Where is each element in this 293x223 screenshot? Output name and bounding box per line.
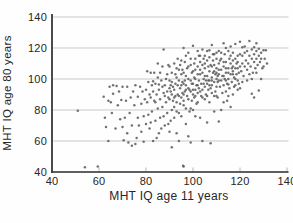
scatter-point — [152, 140, 155, 143]
scatter-point — [225, 67, 228, 70]
scatter-point — [206, 75, 209, 78]
scatter-point — [248, 55, 251, 58]
scatter-point — [175, 76, 178, 79]
scatter-point — [137, 117, 140, 120]
scatter-point — [152, 90, 155, 93]
scatter-point — [222, 75, 225, 78]
scatter-point — [232, 70, 235, 73]
scatter-point — [117, 104, 120, 107]
scatter-point — [222, 101, 225, 104]
scatter-point — [215, 86, 218, 89]
scatter-point — [142, 115, 145, 118]
scatter-point — [204, 67, 207, 70]
scatter-point — [172, 86, 175, 89]
scatter-point — [168, 87, 171, 90]
scatter-point — [174, 73, 177, 76]
scatter-point — [131, 124, 134, 127]
scatter-point — [206, 121, 209, 124]
scatter-point — [260, 58, 263, 61]
scatter-point — [175, 67, 178, 70]
scatter-point — [206, 59, 209, 62]
y-tick-label: 120 — [28, 42, 47, 54]
scatter-point — [147, 113, 150, 116]
scatter-point — [196, 92, 199, 95]
scatter-point — [158, 89, 161, 92]
x-axis-title: MHT IQ age 11 years — [109, 189, 228, 203]
scatter-point — [255, 72, 258, 75]
scatter-point — [258, 48, 261, 51]
y-axis-tick-labels: 406080100120140 — [28, 11, 47, 178]
scatter-point — [227, 67, 230, 70]
scatter-point — [153, 72, 156, 75]
scatter-point — [201, 89, 204, 92]
scatter-point — [241, 62, 244, 65]
scatter-point — [201, 140, 204, 143]
scatter-point — [194, 78, 197, 81]
scatter-point — [179, 64, 182, 67]
scatter-point — [192, 109, 195, 112]
scatter-point — [187, 135, 190, 138]
scatter-point — [236, 55, 239, 58]
scatter-point — [140, 130, 143, 133]
scatter-point — [201, 72, 204, 75]
scatter-point — [173, 62, 176, 65]
scatter-point — [192, 44, 195, 47]
scatter-point — [164, 124, 167, 127]
scatter-point — [225, 61, 228, 64]
scatter-point — [235, 73, 238, 76]
scatter-point — [172, 99, 175, 102]
scatter-point — [178, 79, 181, 82]
scatter-point — [255, 50, 258, 53]
scatter-point — [225, 79, 228, 82]
scatter-point — [211, 65, 214, 68]
scatter-point — [253, 96, 256, 99]
scatter-point — [253, 46, 256, 49]
scatter-point — [239, 87, 242, 90]
scatter-point — [214, 90, 217, 93]
scatter-point — [201, 96, 204, 99]
scatter-point — [182, 82, 185, 85]
scatter-point — [162, 92, 165, 95]
scatter-point — [189, 90, 192, 93]
scatter-point — [246, 68, 249, 71]
scatter-point — [196, 50, 199, 53]
scatter-point — [111, 112, 114, 115]
scatter-point — [175, 101, 178, 104]
scatter-point — [239, 41, 242, 44]
scatter-point — [204, 86, 207, 89]
scatter-point — [218, 79, 221, 82]
scatter-point — [171, 109, 174, 112]
scatter-point — [238, 72, 241, 75]
scatter-point — [166, 90, 169, 93]
scatter-point — [160, 127, 163, 130]
scatter-point — [248, 73, 251, 76]
scatter-point — [194, 89, 197, 92]
scatter-point — [154, 82, 157, 85]
scatter-point — [167, 123, 170, 126]
scatter-point — [151, 110, 154, 113]
scatter-point — [162, 115, 165, 118]
scatter-point — [185, 84, 188, 87]
scatter-point — [144, 98, 147, 101]
scatter-figure: 406080100120140 406080100120140 MHT IQ a… — [0, 0, 293, 223]
scatter-point — [157, 62, 160, 65]
scatter-point — [206, 82, 209, 85]
scatter-point — [207, 65, 210, 68]
scatter-point — [198, 87, 201, 90]
scatter-point — [251, 48, 254, 51]
scatter-point — [192, 89, 195, 92]
scatter-point — [189, 141, 192, 144]
scatter-point — [199, 68, 202, 71]
scatter-point — [245, 59, 248, 62]
scatter-point — [171, 81, 174, 84]
scatter-point — [169, 84, 172, 87]
scatter-point — [202, 82, 205, 85]
scatter-point — [104, 117, 107, 120]
scatter-point — [201, 48, 204, 51]
scatter-point — [199, 55, 202, 58]
scatter-point — [229, 45, 232, 48]
scatter-point — [220, 68, 223, 71]
scatter-point — [140, 103, 143, 106]
scatter-point — [180, 84, 183, 87]
scatter-point — [108, 86, 111, 89]
